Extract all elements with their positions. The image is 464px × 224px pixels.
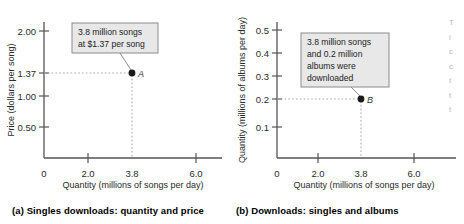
x-tick-label-38-a: 3.8 [125, 168, 138, 179]
edge-text-line: t [449, 103, 464, 118]
edge-text-line: c [449, 60, 464, 75]
x-tick-label-20-b: 2.0 [311, 168, 324, 179]
y-axis-title-a: Price (dollars per song) [6, 43, 16, 136]
x-tick-label-0-b: 0 [274, 168, 279, 179]
x-tick-label-38-b: 3.8 [354, 168, 367, 179]
data-point-label-b: B [367, 95, 373, 105]
y-tick-label-05-b: 0.5 [256, 25, 269, 36]
edge-text-line: t [449, 89, 464, 104]
callout-line-4-b: downloaded [307, 73, 354, 83]
data-point-label-a: A [137, 69, 144, 79]
x-axis-title-b: Quantity (millions of songs per day) [293, 180, 434, 190]
y-tick-label-04-b: 0.4 [256, 48, 269, 59]
x-tick-label-60-b: 6.0 [407, 168, 420, 179]
panel-a-caption: (a) Singles downloads: quantity and pric… [12, 205, 204, 216]
edge-text-line: c [449, 45, 464, 60]
chart-b-svg: 0.5 0.4 0.3 0.2 0.1 0 2.0 3.8 6.0 Quanti… [232, 0, 464, 190]
y-tick-label-02-b: 0.2 [256, 94, 269, 105]
y-tick-label-137-a: 1.37 [18, 68, 37, 79]
y-tick-label-200-a: 2.00 [18, 26, 37, 37]
edge-text-line: i [449, 31, 464, 46]
chart-panel-a: 2.00 1.37 1.00 0.50 0 2.0 3.8 6.0 Quanti… [0, 0, 232, 224]
callout-pointer-b [351, 87, 360, 96]
panel-b-caption: (b) Downloads: singles and albums [236, 205, 399, 216]
callout-line-1-a: 3.8 million songs [78, 27, 142, 37]
x-tick-label-60-a: 6.0 [189, 168, 202, 179]
y-tick-label-03-b: 0.3 [256, 71, 269, 82]
edge-text-line: t [449, 74, 464, 89]
y-axis-title-b: Quantity (millions of albums per day) [237, 17, 247, 163]
y-tick-label-01-b: 0.1 [256, 122, 269, 133]
x-tick-label-0-a: 0 [41, 168, 46, 179]
y-tick-label-050-a: 0.50 [18, 122, 37, 133]
callout-line-1-b: 3.8 million songs [307, 37, 371, 47]
callout-line-2-b: and 0.2 million [307, 49, 363, 59]
chart-a-svg: 2.00 1.37 1.00 0.50 0 2.0 3.8 6.0 Quanti… [0, 0, 232, 190]
x-axis-title-a: Quantity (millions of songs per day) [62, 180, 203, 190]
chart-panel-b: 0.5 0.4 0.3 0.2 0.1 0 2.0 3.8 6.0 Quanti… [232, 0, 464, 224]
y-tick-label-100-a: 1.00 [18, 91, 37, 102]
x-tick-label-20-a: 2.0 [81, 168, 94, 179]
data-point-a [129, 70, 136, 77]
callout-line-3-b: albums were [307, 61, 356, 71]
data-point-b [358, 96, 365, 103]
page-edge-text-fragment: T i c c t t t [449, 16, 464, 118]
callout-pointer-a [120, 53, 131, 70]
callout-line-2-a: at $1.37 per song [78, 39, 145, 49]
edge-text-line: T [449, 16, 464, 31]
